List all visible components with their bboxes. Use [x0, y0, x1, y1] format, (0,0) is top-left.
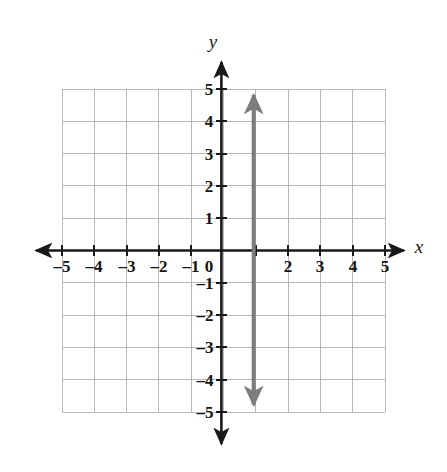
tick-label-x-3: 3 [316, 257, 325, 276]
x-axis-label: x [414, 236, 424, 257]
tick-label-x-5: 5 [381, 257, 390, 276]
tick-label-y-4: 4 [205, 112, 214, 131]
tick-label-x-4: 4 [349, 257, 358, 276]
coordinate-plane-figure: y x 0 –5 –4 –3 –2 –1 2 3 4 5 1 2 3 4 5 –… [0, 0, 447, 472]
tick-label-x-neg3: –3 [118, 257, 136, 276]
tick-label-y-neg1: –1 [196, 274, 214, 293]
tick-label-y-neg4: –4 [196, 371, 215, 390]
graph-canvas: y x 0 –5 –4 –3 –2 –1 2 3 4 5 1 2 3 4 5 –… [0, 0, 447, 472]
tick-label-y-neg3: –3 [196, 338, 214, 357]
tick-label-y-3: 3 [205, 145, 214, 164]
tick-label-x-2: 2 [284, 257, 293, 276]
tick-label-y-5: 5 [205, 80, 214, 99]
tick-label-y-neg2: –2 [196, 306, 214, 325]
tick-label-y-1: 1 [205, 209, 214, 228]
tick-label-y-neg5: –5 [196, 403, 214, 422]
tick-label-x-neg5: –5 [53, 257, 71, 276]
tick-label-x-neg2: –2 [150, 257, 168, 276]
tick-label-x-neg4: –4 [85, 257, 104, 276]
y-axis-label: y [207, 31, 218, 52]
tick-label-y-2: 2 [205, 177, 214, 196]
